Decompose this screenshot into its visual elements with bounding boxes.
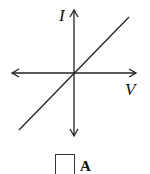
option-checkbox[interactable] — [55, 154, 75, 174]
y-axis-label: I — [59, 6, 65, 26]
x-axis-label: V — [125, 80, 135, 100]
option-label: A — [80, 159, 91, 174]
iv-graph: I V — [0, 0, 150, 150]
graph-svg — [0, 0, 150, 150]
answer-option-a[interactable]: A — [55, 154, 91, 174]
